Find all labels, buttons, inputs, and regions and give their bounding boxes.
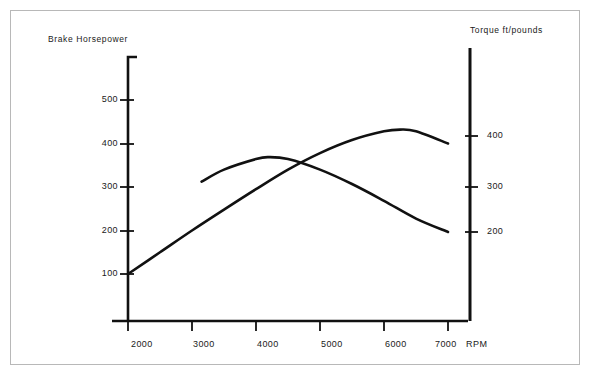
x-axis-unit-label: RPM — [466, 339, 488, 349]
x-tick-label-5000: 5000 — [321, 339, 343, 349]
left-tick-label-500: 500 — [92, 94, 118, 104]
right-tick-label-300: 300 — [487, 181, 503, 191]
brake-horsepower-curve — [128, 130, 448, 274]
left-tick-label-100: 100 — [92, 268, 118, 278]
x-tick-label-6000: 6000 — [385, 339, 407, 349]
left-axis-line — [128, 57, 137, 322]
right-tick-label-400: 400 — [487, 130, 503, 140]
x-tick-label-4000: 4000 — [257, 339, 279, 349]
left-tick-label-200: 200 — [92, 225, 118, 235]
x-tick-label-3000: 3000 — [193, 339, 215, 349]
left-tick-label-300: 300 — [92, 181, 118, 191]
torque-curve — [202, 157, 448, 232]
right-tick-label-200: 200 — [487, 226, 503, 236]
left-tick-label-400: 400 — [92, 138, 118, 148]
chart-page: Brake Horsepower Torque ft/pounds — [0, 0, 592, 376]
x-tick-label-2000: 2000 — [131, 339, 153, 349]
x-tick-label-7000: 7000 — [435, 339, 457, 349]
